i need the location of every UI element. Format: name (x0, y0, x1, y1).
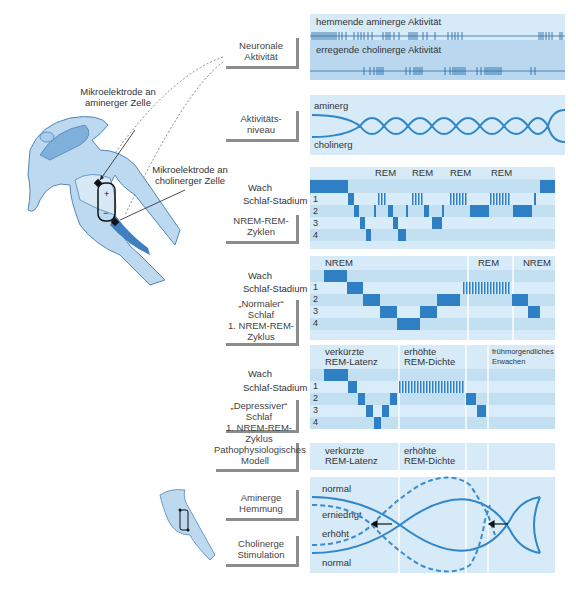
model-curves (0, 0, 576, 596)
